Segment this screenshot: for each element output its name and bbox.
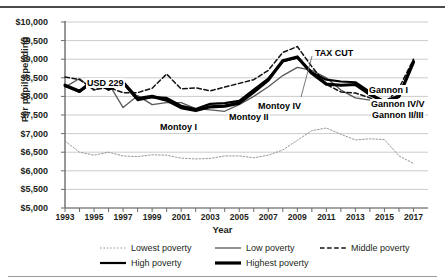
legend-line-swatch xyxy=(215,243,241,253)
x-tick-label: 2005 xyxy=(230,212,249,222)
x-tick-label: 2007 xyxy=(259,212,278,222)
legend-item[interactable]: Lowest poverty xyxy=(100,243,192,253)
bottom-divider-rule xyxy=(8,276,437,277)
x-tick-label: 2013 xyxy=(346,212,365,222)
chart-annotation: Gannon IV/V xyxy=(370,99,426,109)
legend-line-swatch xyxy=(320,243,346,253)
legend-item[interactable]: Highest poverty xyxy=(215,258,309,268)
chart-container: Per pupil spending $10,000$9,500$9,000$8… xyxy=(0,0,445,279)
legend-label: Highest poverty xyxy=(246,258,309,268)
legend-item[interactable]: Low poverty xyxy=(215,243,295,253)
x-tick-label: 2003 xyxy=(201,212,220,222)
chart-annotation: Montoy I xyxy=(159,122,198,132)
chart-annotation: TAX CUT xyxy=(314,48,354,58)
legend-line-swatch xyxy=(100,243,126,253)
legend-item[interactable]: Middle poverty xyxy=(320,243,410,253)
x-tick-label: 2015 xyxy=(375,212,394,222)
chart-annotation: Montoy II xyxy=(228,112,270,122)
legend-line-swatch xyxy=(215,258,241,268)
chart-annotation: USD 229 xyxy=(86,78,125,88)
legend-label: High poverty xyxy=(131,258,182,268)
x-tick-label: 1997 xyxy=(114,212,133,222)
legend-label: Low poverty xyxy=(246,243,295,253)
chart-annotation: Gannon II/III xyxy=(371,110,425,120)
x-axis-title: Year xyxy=(0,224,445,235)
legend-label: Lowest poverty xyxy=(131,243,192,253)
legend-item[interactable]: High poverty xyxy=(100,258,182,268)
x-tick-label: 1999 xyxy=(143,212,162,222)
x-tick-label: 2001 xyxy=(172,212,191,222)
chart-annotation: Gannon I xyxy=(368,85,409,95)
chart-legend: Lowest povertyLow povertyMiddle povertyH… xyxy=(0,243,445,275)
x-tick-label: 2009 xyxy=(288,212,307,222)
series-line xyxy=(65,47,413,104)
legend-line-swatch xyxy=(100,258,126,268)
x-tick-label: 1993 xyxy=(56,212,75,222)
x-tick-label: 2017 xyxy=(404,212,423,222)
x-tick-label: 2011 xyxy=(317,212,335,222)
chart-annotation: Montoy IV xyxy=(257,101,302,111)
x-tick-label: 1995 xyxy=(85,212,104,222)
legend-label: Middle poverty xyxy=(351,243,410,253)
